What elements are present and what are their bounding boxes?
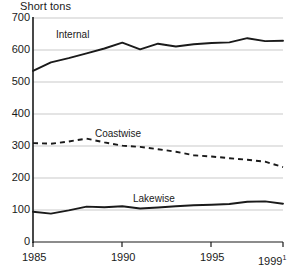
x-tick-1995: 1995 <box>200 252 224 263</box>
y-tick-100: 100 <box>2 204 30 215</box>
series-line-internal <box>33 38 283 71</box>
x-tick-1985: 1985 <box>22 252 46 263</box>
y-tick-300: 300 <box>2 140 30 151</box>
x-tick-1999-text: 1999 <box>258 255 282 267</box>
x-tick-1999: 19991 <box>258 252 286 267</box>
y-tick-400: 400 <box>2 108 30 119</box>
series-label-internal: Internal <box>56 29 89 40</box>
x-tick-1990: 1990 <box>111 252 135 263</box>
y-tick-200: 200 <box>2 172 30 183</box>
axis-lines <box>33 17 283 247</box>
gridlines <box>33 18 283 210</box>
x-tick-footnote: 1 <box>282 254 286 261</box>
series-line-coastwise <box>33 139 283 168</box>
series-label-coastwise: Coastwise <box>95 128 141 139</box>
chart-plot-area <box>0 0 291 275</box>
y-tick-500: 500 <box>2 76 30 87</box>
y-tick-600: 600 <box>2 44 30 55</box>
chart-container: Short tons 700 600 500 400 300 200 <box>0 0 291 275</box>
y-tick-0: 0 <box>2 236 30 247</box>
series-label-lakewise: Lakewise <box>133 193 175 204</box>
y-axis-tick-labels: 700 600 500 400 300 200 100 0 <box>0 0 30 275</box>
y-tick-700: 700 <box>2 12 30 23</box>
